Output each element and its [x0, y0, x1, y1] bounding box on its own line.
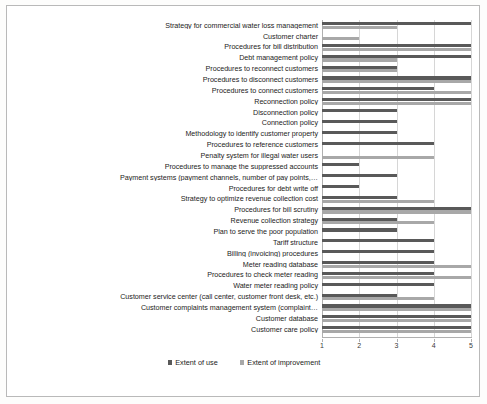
bar-group	[322, 226, 471, 237]
category-label: Procedures to connect customers	[13, 87, 322, 95]
bar-extent-of-use	[322, 66, 397, 69]
bar-extent-of-use	[322, 98, 471, 101]
bar-extent-of-use	[322, 109, 397, 112]
bar-extent-of-use	[322, 22, 471, 25]
bar-group	[322, 20, 471, 31]
bar-extent-of-use	[322, 315, 471, 318]
chart-row: Customer complaints management system (c…	[13, 302, 475, 313]
chart-frame: Strategy for commercial water loss manag…	[6, 5, 480, 397]
chart-row: Strategy for commercial water loss manag…	[13, 20, 475, 31]
chart-row: Procedures to manage the suppressed acco…	[13, 161, 475, 172]
bar-group	[322, 139, 471, 150]
bar-extent-of-improvement	[322, 26, 397, 29]
category-label: Customer complaints management system (c…	[13, 304, 322, 312]
bar-extent-of-improvement	[322, 221, 434, 224]
bar-group	[322, 183, 471, 194]
legend-label: Extent of use	[175, 358, 218, 367]
bar-group	[322, 96, 471, 107]
bar-extent-of-use	[322, 294, 397, 297]
bar-extent-of-use	[322, 131, 397, 134]
x-axis-line	[322, 337, 472, 338]
category-label: Penalty system for illegal water users	[13, 152, 322, 160]
chart-row: Meter reading database	[13, 259, 475, 270]
chart-row: Strategy to optimize revenue collection …	[13, 194, 475, 205]
legend-swatch-icon	[240, 360, 245, 365]
category-label: Customer service center (call center, cu…	[13, 293, 322, 301]
chart-row: Customer care policy	[13, 324, 475, 335]
bar-extent-of-use	[322, 283, 434, 286]
category-label: Strategy for commercial water loss manag…	[13, 22, 322, 30]
bar-extent-of-improvement	[322, 48, 471, 51]
category-label: Procedures for bill scrutiny	[13, 206, 322, 214]
bar-extent-of-improvement	[322, 319, 471, 322]
chart-legend: Extent of useExtent of improvement	[7, 358, 481, 367]
chart-row: Procedures to disconnect customers	[13, 74, 475, 85]
category-label: Water meter reading policy	[13, 282, 322, 290]
bar-extent-of-use	[322, 55, 471, 58]
category-label: Strategy to optimize revenue collection …	[13, 195, 322, 203]
legend-item-improve[interactable]: Extent of improvement	[240, 358, 321, 367]
legend-swatch-icon	[168, 360, 173, 365]
chart-row: Procedures to check meter reading	[13, 270, 475, 281]
bar-extent-of-use	[322, 272, 434, 275]
bar-group	[322, 74, 471, 85]
bar-extent-of-use	[322, 163, 359, 166]
bar-extent-of-use	[322, 185, 359, 188]
chart-row: Revenue collection strategy	[13, 215, 475, 226]
chart-row: Plan to serve the poor population	[13, 226, 475, 237]
bar-group	[322, 205, 471, 216]
bar-extent-of-improvement	[322, 308, 471, 311]
chart-row: Reconnection policy	[13, 96, 475, 107]
bar-extent-of-use	[322, 261, 434, 264]
bar-group	[322, 42, 471, 53]
bar-extent-of-use	[322, 250, 434, 253]
category-label: Customer charter	[13, 33, 322, 41]
legend-label: Extent of improvement	[247, 358, 320, 367]
chart-row: Penalty system for illegal water users	[13, 150, 475, 161]
category-label: Payment systems (payment channels, numbe…	[13, 174, 322, 182]
bar-extent-of-improvement	[322, 200, 434, 203]
bar-extent-of-use	[322, 87, 434, 90]
category-label: Procedures for bill distribution	[13, 43, 322, 51]
chart-row: Customer database	[13, 313, 475, 324]
chart-row: Disconnection policy	[13, 107, 475, 118]
x-tick-label-3: 3	[395, 342, 399, 349]
bar-rows-group: Strategy for commercial water loss manag…	[13, 20, 475, 335]
category-label: Billing (invoicing) procedures	[13, 250, 322, 258]
category-label: Disconnection policy	[13, 109, 322, 117]
category-label: Procedures to reconnect customers	[13, 65, 322, 73]
bar-extent-of-use	[322, 120, 397, 123]
bar-extent-of-use	[322, 174, 397, 177]
category-label: Procedures to reference customers	[13, 141, 322, 149]
chart-row: Procedures to reconnect customers	[13, 63, 475, 74]
bar-group	[322, 237, 471, 248]
bar-group	[322, 281, 471, 292]
chart-row: Tariff structure	[13, 237, 475, 248]
x-tick-label-1: 1	[320, 342, 324, 349]
bar-group	[322, 324, 471, 335]
legend-item-use[interactable]: Extent of use	[168, 358, 218, 367]
bar-extent-of-improvement	[322, 297, 434, 300]
category-label: Connection policy	[13, 119, 322, 127]
bar-group	[322, 313, 471, 324]
bar-extent-of-use	[322, 207, 471, 210]
bar-extent-of-improvement	[322, 210, 471, 213]
bar-extent-of-use	[322, 196, 397, 199]
chart-row: Water meter reading policy	[13, 281, 475, 292]
bar-extent-of-use	[322, 218, 397, 221]
bar-group	[322, 302, 471, 313]
x-tick-label-4: 4	[432, 342, 436, 349]
category-label: Methodology to identify customer propert…	[13, 130, 322, 138]
chart-row: Connection policy	[13, 118, 475, 129]
bar-group	[322, 150, 471, 161]
bar-group	[322, 85, 471, 96]
category-label: Reconnection policy	[13, 98, 322, 106]
category-label: Procedures to check meter reading	[13, 271, 322, 279]
bar-group	[322, 291, 471, 302]
bar-group	[322, 107, 471, 118]
category-label: Procedures to manage the suppressed acco…	[13, 163, 322, 171]
bar-group	[322, 194, 471, 205]
bar-group	[322, 259, 471, 270]
chart-row: Customer service center (call center, cu…	[13, 291, 475, 302]
bar-group	[322, 31, 471, 42]
